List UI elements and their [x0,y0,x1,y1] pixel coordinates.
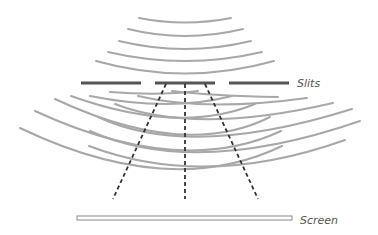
left-wavefront [71,96,255,118]
incoming-wavefronts [96,18,274,74]
right-wavefront [172,91,278,97]
double-slit-diagram: Slits Screen [0,0,378,235]
incoming-wavefront [128,29,243,36]
screen-label: Screen [300,214,338,227]
incoming-wavefront [139,18,231,23]
interference-paths [113,84,258,199]
detection-screen [77,216,292,220]
incoming-wavefront [96,61,274,74]
slits-label: Slits [297,77,320,90]
left-slit-wavefronts [20,91,282,169]
incoming-wavefront [119,41,251,49]
incoming-wavefront [108,52,262,61]
